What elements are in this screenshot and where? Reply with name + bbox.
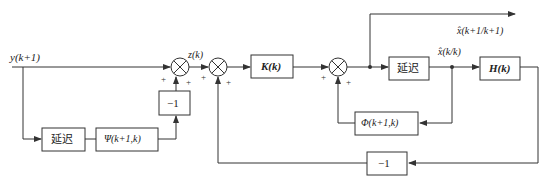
- input-label: y(k+1): [10, 52, 40, 63]
- sign-s3-left: +: [321, 72, 326, 82]
- sign-s2-bottom: +: [226, 77, 231, 87]
- sign-s1-left: +: [161, 74, 166, 84]
- delay-left-label: 延迟: [51, 134, 73, 145]
- delay-right-label: 延迟: [397, 63, 419, 74]
- sign-s3-bottom: +: [346, 77, 351, 87]
- xhat-label: x̂(k/k): [438, 47, 461, 57]
- neg-one-left-label: −1: [167, 98, 179, 109]
- sign-s1-bottom: +: [186, 77, 191, 87]
- z-label: z(k): [188, 50, 203, 60]
- junction-dot: [368, 65, 372, 69]
- phi-label: Φ(k+1,k): [361, 118, 398, 128]
- gain-k-label: K(k): [261, 61, 281, 72]
- h-label: H(k): [489, 63, 510, 74]
- psi-label: Ψ(k+1,k): [104, 134, 141, 144]
- output-top-label: x̂(k+1/k+1): [457, 26, 503, 36]
- neg-one-bottom-label: −1: [378, 158, 390, 169]
- sign-s2-left: +: [201, 72, 206, 82]
- junction-dot: [450, 65, 454, 69]
- branch-to-delay-line: [23, 67, 41, 139]
- output-line: [370, 14, 515, 67]
